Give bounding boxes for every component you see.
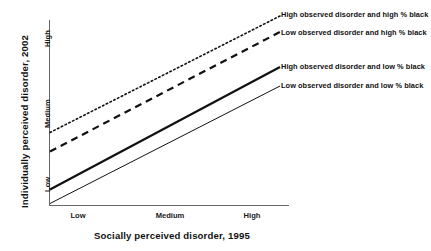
y-tick-label-low: Low xyxy=(44,177,52,192)
chart-plot-area xyxy=(0,0,431,251)
chart-figure: High observed disorder and high % black … xyxy=(0,0,431,251)
series-line-high-obs-low-black xyxy=(50,67,280,190)
series-label-high-obs-low-black: High observed disorder and low % black xyxy=(281,63,425,70)
series-label-low-obs-high-black: Low observed disorder and high % black xyxy=(281,29,427,36)
x-tick-label-medium: Medium xyxy=(156,212,185,220)
series-line-high-obs-high-black xyxy=(50,16,280,133)
y-tick-label-high: High xyxy=(44,30,52,47)
series-line-low-obs-high-black xyxy=(50,32,280,152)
y-axis-title: Individually perceived disorder, 2002 xyxy=(20,35,30,208)
x-axis-title: Socially perceived disorder, 1995 xyxy=(94,231,250,241)
series-label-low-obs-low-black: Low observed disorder and low % black xyxy=(281,82,423,89)
series-line-low-obs-low-black xyxy=(50,86,280,204)
x-tick-label-low: Low xyxy=(70,212,85,220)
y-tick-label-medium: Medium xyxy=(44,99,52,128)
series-label-high-obs-high-black: High observed disorder and high % black xyxy=(281,11,428,18)
x-tick-label-high: High xyxy=(244,212,261,220)
